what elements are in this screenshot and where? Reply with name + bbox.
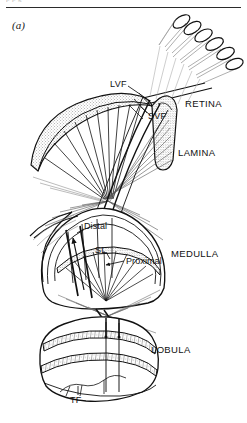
label-distal: Distal bbox=[84, 222, 107, 231]
label-medulla: MEDULLA bbox=[171, 249, 218, 259]
label-lvf: LVF bbox=[110, 80, 127, 89]
lamina-group bbox=[31, 93, 177, 202]
label-proximal: Proximal bbox=[126, 257, 162, 266]
ommatidium bbox=[181, 35, 225, 67]
lamina-stippled-band bbox=[31, 93, 152, 171]
label-sl: SL bbox=[95, 246, 107, 255]
label-lobula: LOBULA bbox=[151, 345, 191, 355]
label-retina: RETINA bbox=[185, 99, 222, 109]
optic-lobe-diagram bbox=[0, 0, 247, 423]
figure-root: p p g (a) bbox=[0, 0, 247, 423]
label-lamina: LAMINA bbox=[178, 148, 215, 158]
retina-group bbox=[143, 12, 245, 105]
ommatidium bbox=[159, 12, 192, 47]
lobula-group bbox=[40, 317, 159, 401]
lamina-lower-fibers bbox=[33, 177, 105, 202]
ommatidium bbox=[166, 19, 203, 53]
lamina-right-column bbox=[152, 96, 177, 170]
label-svf: SVF bbox=[148, 112, 166, 121]
label-tf: TF bbox=[70, 396, 82, 405]
